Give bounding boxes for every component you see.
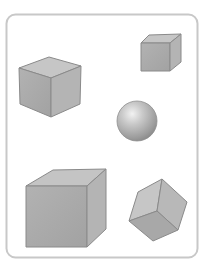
cube-front-face [141, 43, 170, 71]
cube-front-face [26, 186, 87, 247]
cube-large-bottom-left [26, 169, 106, 247]
cube-medium-left [19, 57, 81, 117]
sphere [117, 101, 157, 141]
shapes-illustration [0, 0, 203, 264]
cube-small-top-right [141, 34, 181, 71]
